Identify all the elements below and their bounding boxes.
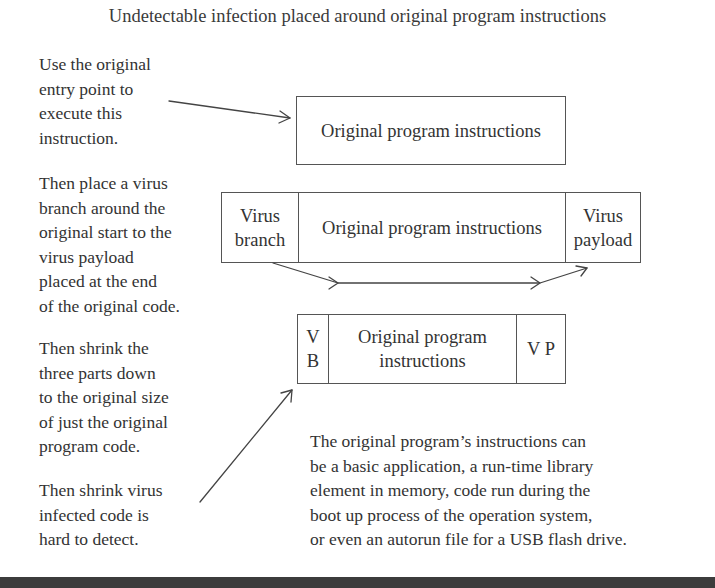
bottom-border-bar: [0, 577, 715, 588]
arrows-layer: [0, 0, 715, 588]
entry-point-arrow-icon: [169, 101, 290, 123]
branch-path-arrow-icon: [273, 263, 587, 289]
shrunk-box-arrow-icon: [200, 390, 292, 502]
